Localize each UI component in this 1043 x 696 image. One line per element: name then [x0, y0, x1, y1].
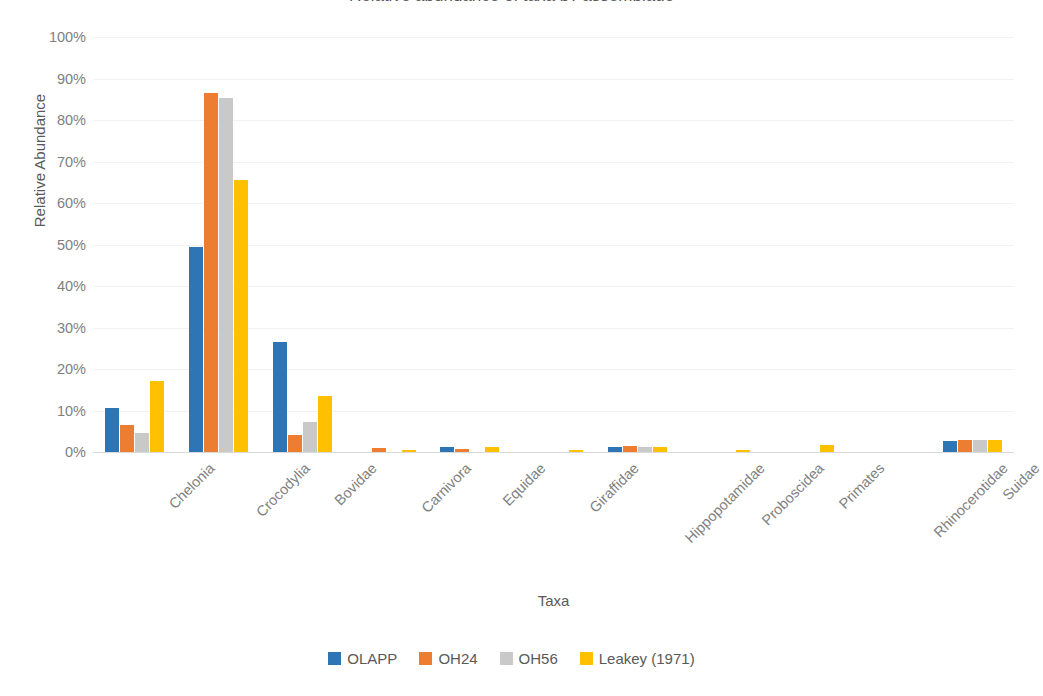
bar-group-bars — [344, 37, 428, 452]
y-axis-tick-label: 100% — [26, 29, 86, 45]
x-axis-tick-label: Primates — [835, 460, 887, 512]
legend-label: OH56 — [519, 650, 558, 667]
bar[interactable] — [150, 381, 164, 452]
bar-group — [763, 37, 847, 452]
bar[interactable] — [105, 408, 119, 452]
y-axis-tick-label: 0% — [26, 444, 86, 460]
bar-group — [428, 37, 512, 452]
bar-group-bars — [93, 37, 177, 452]
y-axis-tick-label: 70% — [26, 154, 86, 170]
legend-label: OH24 — [438, 650, 477, 667]
bar[interactable] — [318, 396, 332, 452]
bar-group-bars — [847, 37, 931, 452]
bar[interactable] — [135, 433, 149, 453]
x-axis-tick-labels: CheloniaCrocodyliaBovidaeCarnivoraEquida… — [93, 452, 1014, 572]
bar[interactable] — [303, 422, 317, 452]
legend-label: Leakey (1971) — [599, 650, 695, 667]
bar[interactable] — [988, 440, 1002, 452]
x-axis-tick-label: Rhinocerotidae — [931, 460, 1011, 540]
legend-color-swatch — [580, 652, 593, 665]
y-axis-tick-label: 80% — [26, 112, 86, 128]
y-axis-tick-label: 20% — [26, 361, 86, 377]
y-axis-tick-label: 30% — [26, 320, 86, 336]
bar-group-bars — [679, 37, 763, 452]
bar[interactable] — [189, 247, 203, 452]
bar-group — [930, 37, 1014, 452]
y-axis-tick-label: 90% — [26, 71, 86, 87]
bar-group — [344, 37, 428, 452]
x-axis-tick-label: Giraffidae — [586, 460, 642, 516]
bar[interactable] — [219, 98, 233, 452]
bar-group-bars — [763, 37, 847, 452]
y-axis-tick-label: 60% — [26, 195, 86, 211]
bar[interactable] — [120, 425, 134, 452]
x-axis-tick-label: Chelonia — [166, 460, 218, 512]
x-axis-tick-label: Equidae — [499, 460, 548, 509]
x-axis-tick-label: Carnivora — [418, 460, 474, 516]
bar[interactable] — [234, 180, 248, 452]
bar[interactable] — [943, 441, 957, 452]
bar-group — [595, 37, 679, 452]
plot-area — [93, 37, 1014, 452]
legend-color-swatch — [500, 652, 513, 665]
bar[interactable] — [820, 445, 834, 452]
bar-group — [93, 37, 177, 452]
y-axis-tick-label: 40% — [26, 278, 86, 294]
y-axis-tick-labels: 100%90%80%70%60%50%40%30%20%10%0% — [18, 37, 86, 452]
legend-color-swatch — [419, 652, 432, 665]
bar-group-bars — [428, 37, 512, 452]
legend-label: OLAPP — [347, 650, 397, 667]
bar[interactable] — [273, 342, 287, 452]
bar-group — [177, 37, 261, 452]
bar-group — [847, 37, 931, 452]
bar[interactable] — [288, 435, 302, 452]
bar[interactable] — [973, 440, 987, 452]
bar-group-bars — [177, 37, 261, 452]
legend-item[interactable]: OH24 — [419, 650, 477, 667]
x-axis-tick-label: Bovidae — [332, 460, 380, 508]
chart-legend: OLAPPOH24OH56Leakey (1971) — [0, 650, 1023, 667]
bar-group-bars — [930, 37, 1014, 452]
x-axis-tick-label: Proboscidea — [759, 460, 827, 528]
x-axis-tick-label: Hippopotamidae — [682, 460, 768, 546]
x-axis-tick-label: Crocodylia — [253, 460, 313, 520]
legend-item[interactable]: OH56 — [500, 650, 558, 667]
bar-group — [512, 37, 596, 452]
bar-group-bars — [260, 37, 344, 452]
chart-title: Relative abundance of taxa by assemblage — [0, 0, 1023, 1]
legend-item[interactable]: OLAPP — [328, 650, 397, 667]
x-axis-title: Taxa — [93, 592, 1014, 609]
bar[interactable] — [204, 93, 218, 452]
bar[interactable] — [958, 440, 972, 452]
bar-group — [679, 37, 763, 452]
bar-group-bars — [595, 37, 679, 452]
legend-item[interactable]: Leakey (1971) — [580, 650, 695, 667]
y-axis-tick-label: 10% — [26, 403, 86, 419]
bar-group-bars — [512, 37, 596, 452]
legend-color-swatch — [328, 652, 341, 665]
bar-group — [260, 37, 344, 452]
y-axis-tick-label: 50% — [26, 237, 86, 253]
